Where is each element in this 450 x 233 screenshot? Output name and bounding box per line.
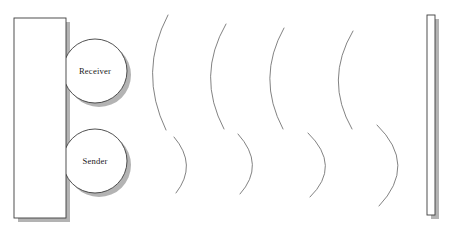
emitted-wavefronts bbox=[152, 15, 353, 130]
receiver-label: Receiver bbox=[79, 66, 111, 76]
reflected-wavefronts bbox=[174, 125, 398, 206]
reflected-wave-3 bbox=[308, 133, 326, 197]
reflected-wave-2 bbox=[238, 134, 253, 194]
ultrasonic-sensor-diagram: Receiver Sender bbox=[0, 0, 450, 233]
transducer-layer bbox=[63, 39, 127, 193]
sender-label: Sender bbox=[82, 156, 107, 166]
emitted-wave-4 bbox=[338, 31, 353, 129]
emitted-wave-1 bbox=[152, 15, 168, 130]
sensor-housing[interactable] bbox=[14, 18, 66, 218]
reflected-wave-4 bbox=[377, 125, 398, 206]
emitted-wave-2 bbox=[210, 24, 226, 129]
emitted-wave-3 bbox=[270, 28, 284, 129]
reflecting-wall[interactable] bbox=[427, 15, 435, 215]
reflected-wave-1 bbox=[174, 137, 187, 193]
diagram-canvas: Receiver Sender bbox=[0, 0, 450, 233]
